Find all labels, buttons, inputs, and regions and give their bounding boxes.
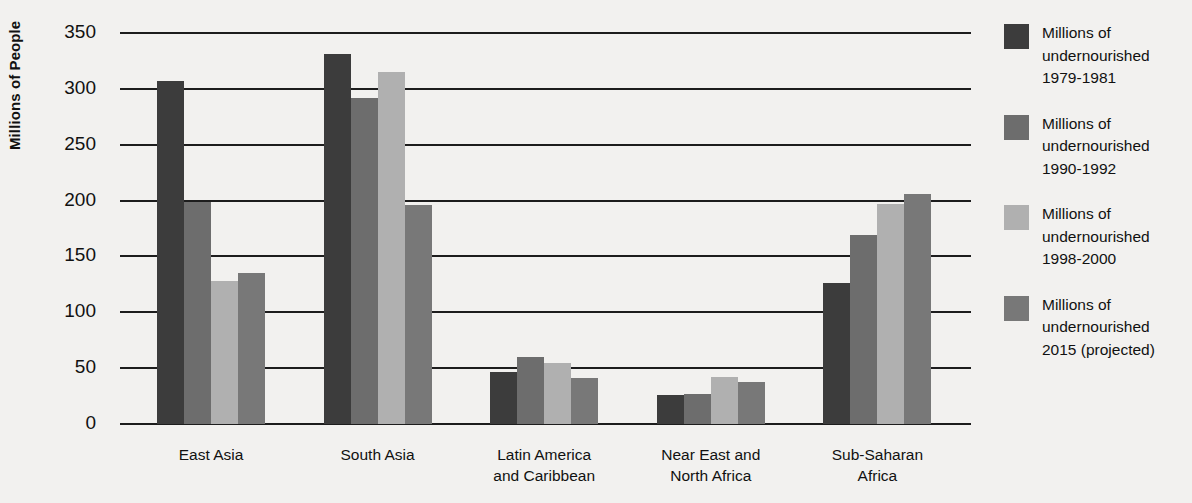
bar[interactable]	[711, 377, 738, 424]
bar-cell	[657, 33, 684, 424]
y-tick-label: 150	[64, 244, 96, 266]
y-tick-label: 200	[64, 188, 96, 210]
bar-cell	[351, 33, 378, 424]
bar[interactable]	[823, 283, 850, 424]
bar[interactable]	[517, 357, 544, 424]
bar-cell	[544, 33, 571, 424]
y-tick-label: 350	[64, 21, 96, 43]
bar-cell	[184, 33, 211, 424]
legend-label: Millions of undernourished 1998-2000	[1042, 203, 1150, 271]
bar[interactable]	[657, 395, 684, 424]
bar-cell	[850, 33, 877, 424]
bar-group	[324, 33, 432, 424]
bar[interactable]	[378, 72, 405, 424]
legend-item[interactable]: Millions of undernourished 1990-1992	[1004, 113, 1190, 181]
y-tick-label: 50	[75, 356, 96, 378]
legend-label: Millions of undernourished 2015 (project…	[1042, 294, 1155, 362]
legend-swatch-icon	[1004, 205, 1029, 230]
chart-figure: Millions of People 050100150200250300350…	[0, 0, 1192, 503]
bar[interactable]	[351, 98, 378, 424]
bar-cell	[904, 33, 931, 424]
bar-group	[657, 33, 765, 424]
bar-cell	[823, 33, 850, 424]
x-axis-label: Latin America and Caribbean	[454, 444, 634, 486]
x-axis-label: Near East and North Africa	[621, 444, 801, 486]
bar[interactable]	[490, 372, 517, 425]
bar[interactable]	[211, 281, 238, 424]
bar-cell	[378, 33, 405, 424]
bar-series-container	[138, 33, 971, 424]
legend-swatch-icon	[1004, 115, 1029, 140]
bar[interactable]	[877, 204, 904, 424]
y-tick-label: 250	[64, 132, 96, 154]
bar-cell	[238, 33, 265, 424]
legend-label: Millions of undernourished 1990-1992	[1042, 113, 1150, 181]
legend-swatch-icon	[1004, 24, 1029, 49]
bar-cell	[157, 33, 184, 424]
legend-item[interactable]: Millions of undernourished 1998-2000	[1004, 203, 1190, 271]
legend-label: Millions of undernourished 1979-1981	[1042, 22, 1150, 90]
bar-cell	[490, 33, 517, 424]
bar[interactable]	[904, 194, 931, 424]
bar-cell	[211, 33, 238, 424]
plot-area: 050100150200250300350	[138, 33, 971, 424]
bar[interactable]	[238, 273, 265, 424]
bar[interactable]	[738, 382, 765, 424]
x-axis-label: Sub-Saharan Africa	[787, 444, 967, 486]
bar[interactable]	[684, 394, 711, 424]
bar[interactable]	[544, 363, 571, 424]
legend-swatch-icon	[1004, 296, 1029, 321]
bar-cell	[571, 33, 598, 424]
bar[interactable]	[571, 378, 598, 424]
bar-cell	[711, 33, 738, 424]
legend-item[interactable]: Millions of undernourished 2015 (project…	[1004, 294, 1190, 362]
bar[interactable]	[184, 202, 211, 424]
bar-group	[823, 33, 931, 424]
bar-cell	[877, 33, 904, 424]
legend-item[interactable]: Millions of undernourished 1979-1981	[1004, 22, 1190, 90]
bar[interactable]	[405, 205, 432, 424]
bar-cell	[405, 33, 432, 424]
x-axis-label: South Asia	[288, 444, 468, 465]
bar[interactable]	[324, 54, 351, 424]
y-tick-label: 300	[64, 76, 96, 98]
y-axis-title: Millions of People	[6, 0, 23, 150]
bar[interactable]	[850, 235, 877, 424]
y-tick-label: 0	[85, 412, 96, 434]
chart-legend: Millions of undernourished 1979-1981Mill…	[1004, 22, 1190, 384]
bar[interactable]	[157, 81, 184, 424]
bar-group	[157, 33, 265, 424]
x-axis-label: East Asia	[121, 444, 301, 465]
bar-cell	[324, 33, 351, 424]
bar-cell	[684, 33, 711, 424]
bar-cell	[738, 33, 765, 424]
bar-group	[490, 33, 598, 424]
y-tick-label: 100	[64, 300, 96, 322]
bar-cell	[517, 33, 544, 424]
